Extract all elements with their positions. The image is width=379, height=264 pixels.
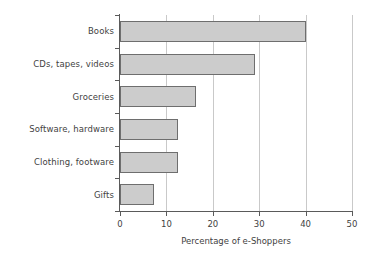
x-tick-10 bbox=[166, 211, 167, 216]
category-axis-labels: BooksCDs, tapes, videosGroceriesSoftware… bbox=[0, 15, 114, 211]
bar-chart: BooksCDs, tapes, videosGroceriesSoftware… bbox=[0, 0, 379, 264]
y-tick-6 bbox=[115, 211, 120, 212]
x-tick-0 bbox=[120, 211, 121, 216]
x-tick-label-50: 50 bbox=[347, 219, 358, 229]
bar bbox=[120, 21, 306, 42]
category-label: Clothing, footware bbox=[0, 157, 114, 167]
x-tick-label-0: 0 bbox=[117, 219, 122, 229]
x-tick-label-20: 20 bbox=[207, 219, 218, 229]
category-label: Software, hardware bbox=[0, 124, 114, 134]
bar bbox=[120, 184, 154, 205]
plot-area: 01020304050 bbox=[120, 15, 352, 211]
category-label: Books bbox=[0, 26, 114, 36]
x-tick-label-10: 10 bbox=[161, 219, 172, 229]
x-tick-20 bbox=[213, 211, 214, 216]
gridline-x-10 bbox=[166, 15, 167, 211]
x-tick-40 bbox=[306, 211, 307, 216]
x-tick-label-30: 30 bbox=[254, 219, 265, 229]
y-tick-0 bbox=[115, 15, 120, 16]
gridline-x-40 bbox=[306, 15, 307, 211]
gridline-x-20 bbox=[213, 15, 214, 211]
x-axis-title: Percentage of e-Shoppers bbox=[120, 236, 352, 247]
bar bbox=[120, 54, 255, 75]
x-tick-label-40: 40 bbox=[300, 219, 311, 229]
bar bbox=[120, 86, 196, 107]
category-label: Gifts bbox=[0, 190, 114, 200]
y-tick-3 bbox=[115, 113, 120, 114]
x-tick-50 bbox=[352, 211, 353, 216]
x-axis-line bbox=[119, 211, 353, 212]
bar bbox=[120, 152, 178, 173]
bar bbox=[120, 119, 178, 140]
y-tick-1 bbox=[115, 48, 120, 49]
category-label: Groceries bbox=[0, 92, 114, 102]
y-tick-5 bbox=[115, 178, 120, 179]
y-tick-4 bbox=[115, 146, 120, 147]
y-tick-2 bbox=[115, 80, 120, 81]
gridline-x-50 bbox=[352, 15, 353, 211]
category-label: CDs, tapes, videos bbox=[0, 59, 114, 69]
gridline-x-30 bbox=[259, 15, 260, 211]
x-tick-30 bbox=[259, 211, 260, 216]
